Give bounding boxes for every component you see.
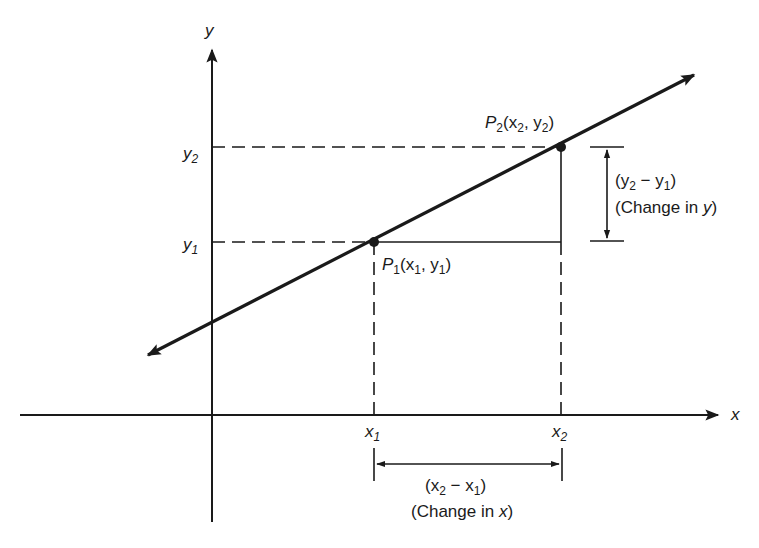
p2-label: P2(x2, y2) — [485, 113, 554, 135]
point-p2 — [556, 142, 566, 152]
delta-y-bracket — [590, 147, 624, 241]
p1-label: P1(x1, y1) — [382, 255, 451, 277]
x2-tick-label: x2 — [551, 422, 568, 444]
delta-y-caption: (Change in y) — [615, 198, 717, 217]
y-axis-label: y — [204, 21, 215, 40]
x1-tick-label: x1 — [364, 422, 380, 444]
slope-diagram: x y y2 y1 x1 x2 P2(x2, y2) P1(x1, y1) (y… — [0, 0, 759, 548]
y1-tick-label: y1 — [182, 235, 198, 257]
y2-tick-label: y2 — [182, 144, 199, 166]
point-p1 — [369, 237, 379, 247]
delta-x-caption: (Change in x) — [411, 502, 513, 521]
x-axis-label: x — [730, 405, 740, 424]
delta-y-expression: (y2 − y1) — [615, 171, 676, 193]
delta-x-expression: (x2 − x1) — [425, 476, 486, 498]
sloped-line — [148, 75, 694, 355]
